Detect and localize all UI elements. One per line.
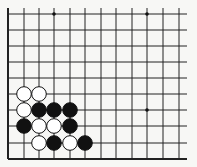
star-point	[145, 108, 149, 112]
white-stone[interactable]	[17, 103, 32, 118]
star-point	[52, 12, 56, 16]
white-stone[interactable]	[32, 119, 47, 134]
white-stone[interactable]	[32, 87, 47, 102]
black-stone[interactable]	[17, 119, 32, 134]
star-point	[145, 12, 149, 16]
black-stone[interactable]	[47, 103, 62, 118]
black-stone[interactable]	[32, 103, 47, 118]
white-stone[interactable]	[63, 136, 78, 151]
black-stone[interactable]	[47, 136, 62, 151]
white-stone[interactable]	[47, 119, 62, 134]
black-stone[interactable]	[63, 119, 78, 134]
black-stone[interactable]	[63, 103, 78, 118]
go-board[interactable]	[0, 0, 197, 167]
white-stone[interactable]	[17, 87, 32, 102]
black-stone[interactable]	[78, 136, 93, 151]
white-stone[interactable]	[32, 136, 47, 151]
